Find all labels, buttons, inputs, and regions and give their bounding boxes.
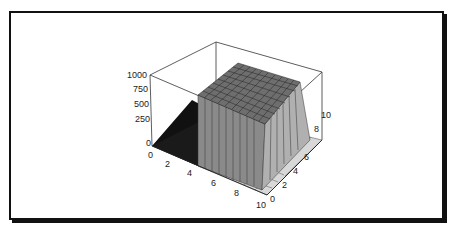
svg-text:2: 2 (165, 159, 170, 169)
svg-text:750: 750 (133, 84, 148, 94)
svg-text:1000: 1000 (127, 70, 147, 80)
svg-text:6: 6 (211, 178, 216, 188)
svg-text:0: 0 (146, 138, 151, 148)
surface-plot: 1000 750 500 250 0 0 2 4 6 8 10 0 2 4 6 … (0, 0, 454, 229)
svg-text:2: 2 (282, 180, 287, 190)
svg-text:10: 10 (321, 110, 331, 120)
svg-text:0: 0 (270, 194, 275, 204)
svg-text:0: 0 (148, 150, 153, 160)
svg-text:500: 500 (134, 99, 149, 109)
svg-text:4: 4 (293, 166, 298, 176)
svg-text:10: 10 (256, 200, 266, 210)
svg-text:4: 4 (187, 168, 192, 178)
svg-text:8: 8 (314, 124, 319, 134)
svg-text:8: 8 (234, 188, 239, 198)
svg-text:250: 250 (135, 114, 150, 124)
z-axis-ticks: 1000 750 500 250 0 (127, 70, 151, 148)
svg-text:6: 6 (304, 152, 309, 162)
